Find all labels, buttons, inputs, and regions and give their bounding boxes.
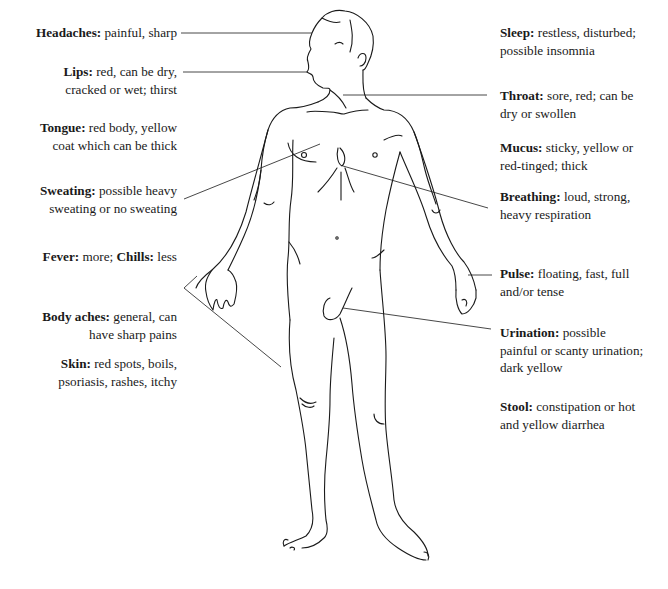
term: Breathing: bbox=[500, 189, 561, 204]
label-lips: Lips: red, can be dry, cracked or wet; t… bbox=[0, 63, 177, 98]
eye bbox=[335, 43, 343, 45]
right-hip bbox=[372, 250, 384, 258]
term: Headaches: bbox=[36, 25, 101, 40]
left-leg-inner bbox=[302, 338, 334, 548]
term2: Chills: bbox=[117, 249, 154, 264]
term: Sweating: bbox=[40, 183, 96, 198]
desc3: dark yellow bbox=[500, 360, 563, 375]
desc2: heavy respiration bbox=[500, 207, 591, 222]
label-skin: Skin: red spots, boils, psoriasis, rashe… bbox=[0, 355, 177, 390]
right-hand bbox=[456, 290, 476, 314]
term: Sleep: bbox=[500, 25, 534, 40]
desc2: and/or tense bbox=[500, 284, 564, 299]
left-torso bbox=[287, 140, 293, 320]
term: Pulse: bbox=[500, 266, 534, 281]
term: Skin: bbox=[61, 356, 91, 371]
desc2: psoriasis, rashes, itchy bbox=[58, 374, 177, 389]
term: Mucus: bbox=[500, 140, 543, 155]
leader-body-aches-skin bbox=[184, 276, 281, 367]
leader-lines bbox=[181, 33, 492, 367]
genitals bbox=[323, 288, 352, 320]
desc2: possible insomnia bbox=[500, 43, 595, 58]
sternum bbox=[318, 148, 354, 200]
right-leg-inner bbox=[340, 318, 426, 560]
desc2: have sharp pains bbox=[89, 327, 177, 342]
neck bbox=[318, 70, 366, 108]
left-knee bbox=[300, 398, 316, 407]
right-torso bbox=[380, 152, 400, 270]
navel bbox=[336, 237, 338, 239]
label-tongue: Tongue: red body, yellow coat which can … bbox=[0, 119, 177, 154]
desc: red spots, boils, bbox=[94, 356, 177, 371]
left-hip bbox=[289, 242, 300, 264]
desc2: coat which can be thick bbox=[53, 138, 178, 153]
term: Lips: bbox=[64, 64, 93, 79]
desc2: sweating or no sweating bbox=[49, 201, 177, 216]
label-sweating: Sweating: possible heavy sweating or no … bbox=[0, 182, 177, 217]
label-body-aches: Body aches: general, can have sharp pain… bbox=[0, 308, 177, 343]
desc: painful, sharp bbox=[104, 25, 177, 40]
label-throat: Throat: sore, red; can be dry or swollen bbox=[500, 87, 668, 122]
right-knee bbox=[374, 414, 384, 424]
term: Body aches: bbox=[42, 309, 110, 324]
term: Urination: bbox=[500, 325, 559, 340]
desc2: painful or scanty urination; bbox=[500, 343, 643, 358]
desc: red, can be dry, bbox=[96, 64, 177, 79]
left-leg-outer bbox=[284, 320, 313, 546]
desc: floating, fast, full bbox=[538, 266, 630, 281]
hair-line bbox=[322, 18, 352, 52]
desc2: red-tinged; thick bbox=[500, 158, 588, 173]
desc: possible bbox=[563, 325, 606, 340]
desc: sticky, yellow or bbox=[546, 140, 633, 155]
label-breathing: Breathing: loud, strong, heavy respirati… bbox=[500, 188, 668, 223]
left-hand bbox=[205, 270, 236, 310]
left-nipple bbox=[302, 153, 307, 158]
right-pec bbox=[384, 135, 402, 140]
label-urination: Urination: possible painful or scanty ur… bbox=[500, 324, 668, 377]
ear bbox=[358, 54, 366, 67]
collarbone bbox=[307, 110, 368, 114]
desc: sore, red; can be bbox=[547, 88, 633, 103]
desc: restless, disturbed; bbox=[538, 25, 636, 40]
left-shoulder bbox=[254, 102, 318, 200]
term: Throat: bbox=[500, 88, 544, 103]
body-outline bbox=[196, 10, 476, 560]
desc2: dry or swollen bbox=[500, 106, 576, 121]
left-arm-inner bbox=[228, 170, 261, 270]
term: Stool: bbox=[500, 399, 533, 414]
right-leg-outer bbox=[380, 270, 428, 556]
right-nipple bbox=[373, 153, 377, 157]
label-stool: Stool: constipation or hot and yellow di… bbox=[500, 398, 668, 433]
label-sleep: Sleep: restless, disturbed; possible ins… bbox=[500, 24, 668, 59]
label-fever-chills: Fever: more; Chills: less bbox=[0, 248, 177, 266]
desc: more; bbox=[82, 249, 113, 264]
label-mucus: Mucus: sticky, yellow or red-tinged; thi… bbox=[500, 139, 668, 174]
desc: loud, strong, bbox=[564, 189, 630, 204]
term: Fever: bbox=[43, 249, 80, 264]
desc2: and yellow diarrhea bbox=[500, 417, 605, 432]
label-headaches: Headaches: painful, sharp bbox=[0, 24, 177, 42]
right-shoulder bbox=[366, 98, 436, 204]
label-pulse: Pulse: floating, fast, full and/or tense bbox=[500, 265, 668, 300]
desc: red body, yellow bbox=[89, 120, 177, 135]
desc: possible heavy bbox=[99, 183, 177, 198]
desc2: cracked or wet; thirst bbox=[65, 82, 177, 97]
left-elbow bbox=[264, 202, 274, 205]
right-arm-outer bbox=[414, 132, 476, 290]
desc: general, can bbox=[113, 309, 177, 324]
term: Tongue: bbox=[40, 120, 86, 135]
desc: constipation or hot bbox=[536, 399, 635, 414]
left-arm-outer bbox=[196, 130, 268, 288]
desc2: less bbox=[157, 249, 177, 264]
